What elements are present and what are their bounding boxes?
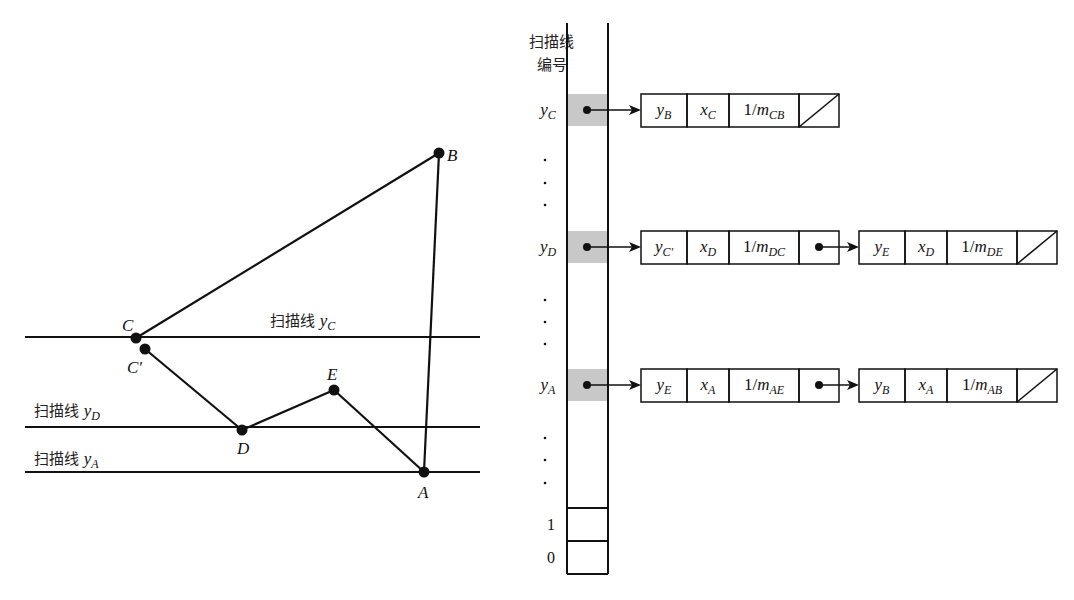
edge-node: yExD1/mDE: [859, 231, 1057, 264]
ellipsis-dot: [544, 159, 547, 162]
null-pointer-icon: [1017, 231, 1057, 264]
edge-DCp: [145, 349, 242, 430]
ellipsis-dot: [544, 437, 547, 440]
edge-CB: [136, 153, 439, 338]
node-field-2: 1/mDC: [743, 237, 786, 259]
edge-node: yBxC1/mCB: [641, 94, 839, 127]
scanline-label-yA: 扫描线 yA: [34, 449, 99, 471]
node-field-1: xC: [699, 100, 717, 122]
scanline-edge-table-diagram: 扫描线 yC扫描线 yD扫描线 yABCC′DEA 扫描线编号yCyDyA10y…: [0, 0, 1074, 600]
edge-node: yBxA1/mAB: [859, 369, 1057, 402]
ellipsis-dot: [544, 343, 547, 346]
node-field-0: yE: [655, 375, 673, 397]
edge-list-yA: yExA1/mAEyBxA1/mAB: [583, 369, 1057, 402]
scanline-label-yD: 扫描线 yD: [34, 401, 100, 423]
scanline-label-yC: 扫描线 yC: [270, 311, 336, 333]
bucket-label-C: yC: [538, 100, 557, 122]
edge-node: yExA1/mAE: [641, 369, 859, 402]
vertex-B: [434, 148, 445, 159]
node-field-2: 1/mAE: [744, 375, 785, 397]
ellipsis-dot: [544, 299, 547, 302]
vertex-E: [329, 385, 340, 396]
ellipsis-dot: [544, 482, 547, 485]
table-header-line2: 编号: [537, 56, 567, 74]
node-field-2: 1/mCB: [744, 100, 786, 122]
node-field-1: xD: [699, 237, 717, 259]
bucket-label-A: yA: [539, 375, 557, 397]
null-pointer-icon: [1017, 369, 1057, 402]
vertex-Cp: [140, 344, 151, 355]
polygon-figure: 扫描线 yC扫描线 yD扫描线 yABCC′DEA: [25, 146, 480, 502]
edge-ED: [242, 390, 334, 430]
node-field-0: yE: [873, 237, 891, 259]
vertex-label-A: A: [417, 483, 429, 502]
vertex-label-C: C: [122, 316, 134, 335]
bucket-index-0: 0: [547, 549, 555, 566]
node-field-1: xD: [917, 237, 935, 259]
node-field-1: xA: [918, 375, 935, 397]
bucket-index-1: 1: [547, 516, 555, 533]
ellipsis-dot: [544, 204, 547, 207]
edge-list-yD: yC′xD1/mDCyExD1/mDE: [583, 231, 1057, 264]
null-pointer-icon: [799, 94, 839, 127]
vertex-label-D: D: [236, 439, 250, 458]
node-field-2: 1/mDE: [961, 237, 1003, 259]
node-field-0: yB: [873, 375, 891, 397]
ellipsis-dot: [544, 321, 547, 324]
sorted-edge-table: 扫描线编号yCyDyA10yBxC1/mCByC′xD1/mDCyExD1/mD…: [529, 23, 1057, 574]
vertex-A: [419, 467, 430, 478]
vertex-D: [237, 425, 248, 436]
node-field-2: 1/mAB: [962, 375, 1003, 397]
node-field-0: yC′: [653, 237, 674, 259]
edge-node: yC′xD1/mDC: [641, 231, 859, 264]
bucket-label-D: yD: [538, 237, 557, 259]
edge-AE: [334, 390, 424, 472]
vertex-label-E: E: [326, 365, 338, 384]
ellipsis-dot: [544, 182, 547, 185]
vertex-label-Cp: C′: [127, 358, 142, 377]
edge-list-yC: yBxC1/mCB: [583, 94, 839, 127]
edge-BA: [424, 153, 439, 472]
vertex-label-B: B: [447, 146, 458, 165]
node-field-0: yB: [655, 100, 673, 122]
ellipsis-dot: [544, 459, 547, 462]
node-field-1: xA: [700, 375, 717, 397]
